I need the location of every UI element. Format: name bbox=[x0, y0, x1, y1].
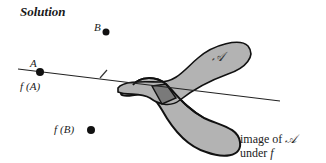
f-a-arg: (A) bbox=[26, 80, 40, 92]
solution-heading: Solution bbox=[20, 5, 66, 18]
caption-line-1: image of 𝒜 bbox=[240, 133, 296, 145]
caption-text: image of bbox=[240, 132, 282, 146]
f-symbol: f bbox=[20, 80, 23, 92]
point-b-label: B bbox=[94, 22, 101, 33]
caption-set-symbol: 𝒜 bbox=[285, 132, 296, 146]
caption-text: under bbox=[240, 146, 267, 160]
f-b-label: f(B) bbox=[54, 124, 74, 135]
point-a-label: A bbox=[30, 58, 37, 69]
point-f-b bbox=[87, 126, 95, 134]
point-b bbox=[103, 29, 110, 36]
f-symbol: f bbox=[54, 123, 57, 135]
point-a bbox=[36, 68, 44, 76]
f-b-arg: (B) bbox=[60, 123, 74, 135]
f-a-label: f(A) bbox=[20, 81, 40, 92]
caption-f-symbol: f bbox=[270, 146, 273, 160]
caption-line-2: under f bbox=[240, 147, 274, 159]
line-l-marker bbox=[100, 70, 107, 78]
set-a-label: 𝒜 bbox=[212, 50, 224, 63]
diagram-canvas: Solution B A f(A) f(B) 𝒜 image of 𝒜 unde… bbox=[0, 0, 326, 163]
